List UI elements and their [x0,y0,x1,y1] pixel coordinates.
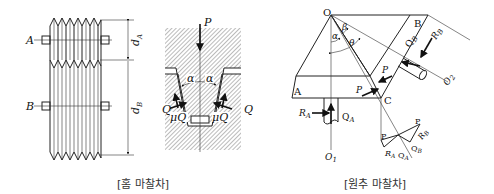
label-p: P [203,16,212,29]
groove-detail-figure: P α α Q μQ Q μQ [162,16,253,152]
label-qb: QB [403,33,420,50]
conical-wheels-figure: O A B C α β θ P P RA QA QB RB O1 O2 P P … [292,7,470,164]
label-p-right: P [381,65,389,75]
label-o2: O2 [441,71,458,88]
label-da: dA [129,34,144,46]
label-alpha-left: α [187,72,195,85]
label-beta: β [341,22,347,32]
label-muq-right: μQ [212,111,228,124]
label-b: B [25,100,34,113]
label-cone-b: B [414,18,421,29]
label-o: O [323,7,331,18]
svg-text:dA: dA [129,34,144,46]
label-ra: RA [298,108,311,120]
wheel-b [34,60,112,160]
label-qa: QA [342,112,354,124]
label-a: A [25,34,34,47]
friction-wheel-diagram: A B dA dB P α α Q μ [0,0,494,194]
label-cone-a: A [293,86,302,97]
label-tri-p2: P [415,117,421,126]
grooved-wheels-figure: A B dA dB [25,18,144,160]
label-q-right: Q [244,103,253,116]
svg-text:dB: dB [129,102,144,114]
label-muq-left: μQ [170,111,186,124]
caption-conical: [원추 마찰차] [344,175,406,191]
label-alpha: α [332,31,338,41]
label-p-left: P [355,85,363,95]
label-theta: θ [349,38,355,48]
caption-grooved: [홈 마찰차] [117,175,169,191]
label-tri-qb: QB [411,144,423,154]
label-tri-qa: QA [398,151,410,161]
label-c: C [384,95,392,106]
label-tri-ra: RA [384,149,396,159]
wheel-a [34,18,112,60]
label-alpha-right: α [206,72,214,85]
label-db: dB [129,102,144,114]
label-tri-p1: P [381,132,387,141]
label-o1: O1 [325,152,337,164]
label-tri-rb: RB [416,127,431,143]
